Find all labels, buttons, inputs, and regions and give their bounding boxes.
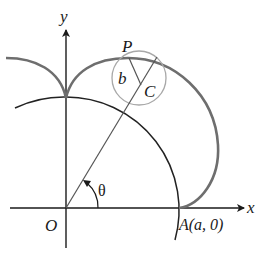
origin-label: O: [45, 216, 57, 235]
diagram-svg: y x O P b C θ A(a, 0): [0, 0, 267, 258]
segment-b: [129, 58, 141, 85]
x-axis-label: x: [246, 198, 255, 217]
center-c-label: C: [144, 82, 156, 101]
point-p-label: P: [121, 37, 132, 56]
fixed-circle: [15, 97, 179, 240]
epicycloid-left-branch: [6, 58, 66, 98]
angle-arc: [87, 183, 98, 208]
radius-b-label: b: [118, 69, 127, 88]
epicycloid-diagram: y x O P b C θ A(a, 0): [0, 0, 267, 258]
angle-theta-label: θ: [98, 182, 106, 199]
y-axis-label: y: [58, 7, 68, 26]
point-a-label: A(a, 0): [178, 216, 223, 234]
